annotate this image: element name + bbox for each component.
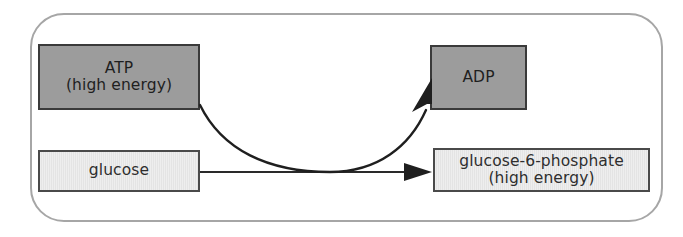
node-g6p-label-line-2: (high energy) (488, 170, 594, 187)
node-g6p-label-line-1: glucose-6-phosphate (459, 153, 624, 170)
node-glucose[interactable]: glucose (38, 150, 200, 192)
reaction-diagram: ATP (high energy) ADP glucose glucose-6-… (0, 0, 683, 237)
node-atp[interactable]: ATP (high energy) (38, 44, 200, 110)
node-atp-label-line-2: (high energy) (66, 77, 172, 94)
node-atp-label-line-1: ATP (105, 60, 134, 77)
node-glucose-6-phosphate[interactable]: glucose-6-phosphate (high energy) (433, 148, 650, 192)
node-adp-label-line-1: ADP (462, 69, 494, 86)
node-adp[interactable]: ADP (430, 45, 527, 110)
node-glucose-label-line-1: glucose (89, 162, 149, 179)
